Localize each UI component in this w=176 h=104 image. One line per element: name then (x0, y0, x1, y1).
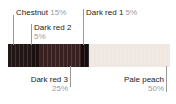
label-pale-peach-percent: 50% (96, 84, 164, 93)
leader-line-dark-red-2 (31, 24, 32, 45)
bar-segment-dark-red-3 (40, 44, 81, 67)
label-chestnut-name: Chestnut (16, 8, 48, 17)
label-dark-red-1: Dark red 1 5% (86, 8, 137, 17)
bar-segment-pale-peach (89, 44, 170, 67)
label-dark-red-3: Dark red 3 25% (0, 75, 68, 93)
label-dark-red-2: Dark red 2 5% (34, 23, 71, 41)
bar-segment-dark-red-2 (32, 44, 40, 67)
label-chestnut: Chestnut 15% (16, 8, 66, 17)
label-dark-red-1-name: Dark red 1 (86, 8, 123, 17)
label-chestnut-percent: 15% (50, 8, 66, 17)
label-dark-red-2-name: Dark red 2 (34, 23, 71, 32)
leader-line-dark-red-1 (83, 9, 84, 45)
leader-line-chestnut (13, 15, 14, 45)
label-dark-red-1-percent: 5% (126, 8, 138, 17)
label-dark-red-2-percent: 5% (34, 32, 71, 41)
bar-segment-chestnut (8, 44, 32, 67)
color-proportion-figure: Chestnut 15% Dark red 2 5% Dark red 1 5%… (0, 0, 176, 104)
label-pale-peach: Pale peach 50% (96, 75, 164, 93)
proportion-bar (8, 44, 170, 67)
label-pale-peach-name: Pale peach (96, 75, 164, 84)
bar-segment-dark-red-1 (81, 44, 89, 67)
label-dark-red-3-name: Dark red 3 (0, 75, 68, 84)
leader-line-pale-peach (166, 66, 167, 92)
leader-line-dark-red-3 (70, 66, 71, 87)
label-dark-red-3-percent: 25% (0, 84, 68, 93)
